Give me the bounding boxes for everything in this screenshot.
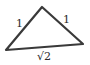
left-side-label: 1 (16, 18, 23, 29)
triangle-diagram: 1 1 √2 (0, 0, 90, 65)
right-side-label: 1 (63, 14, 70, 25)
base-label: √2 (37, 51, 51, 62)
